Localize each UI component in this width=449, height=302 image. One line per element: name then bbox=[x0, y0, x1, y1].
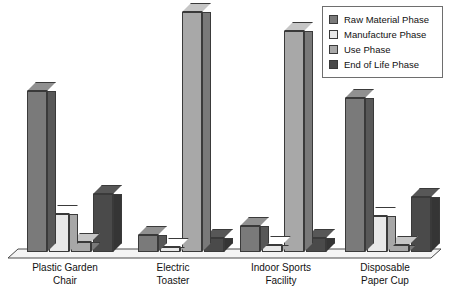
bar-side-face bbox=[113, 194, 122, 252]
bar-electric-toaster-raw-material-phase bbox=[138, 235, 158, 252]
category-label-3: Disposable Paper Cup bbox=[330, 262, 440, 287]
bar-top-face bbox=[93, 185, 122, 194]
bar-top-face bbox=[240, 217, 269, 226]
bar-front-face bbox=[182, 12, 202, 252]
bar-front-face bbox=[284, 31, 304, 252]
bar-front-face bbox=[160, 247, 180, 252]
legend-swatch-manufacture-phase bbox=[329, 30, 338, 39]
bar-top-face bbox=[138, 226, 167, 235]
bar-side-face bbox=[431, 197, 440, 252]
bar-side-face bbox=[304, 31, 313, 252]
chart-legend: Raw Material Phase Manufacture Phase Use… bbox=[322, 6, 443, 78]
bar-front-face bbox=[345, 98, 365, 252]
bar-side-face bbox=[224, 238, 233, 252]
bar-front-face bbox=[138, 235, 158, 252]
legend-swatch-end-of-life-phase bbox=[329, 60, 338, 69]
category-label-2: Indoor Sports Facility bbox=[222, 262, 340, 287]
bar-side-face bbox=[202, 12, 211, 252]
bar-side-face bbox=[365, 98, 374, 252]
bar-top-face bbox=[284, 22, 313, 31]
legend-item-end-of-life-phase[interactable]: End of Life Phase bbox=[329, 57, 436, 71]
legend-swatch-raw-material-phase bbox=[329, 15, 338, 24]
bar-electric-toaster-manufacture-phase bbox=[160, 247, 180, 252]
bar-front-face bbox=[411, 197, 431, 252]
legend-item-manufacture-phase[interactable]: Manufacture Phase bbox=[329, 27, 436, 41]
legend-item-use-phase[interactable]: Use Phase bbox=[329, 42, 436, 56]
legend-label-use-phase: Use Phase bbox=[344, 44, 390, 55]
legend-label-manufacture-phase: Manufacture Phase bbox=[344, 29, 426, 40]
bar-top-face bbox=[27, 82, 56, 91]
bar-indoor-sports-facility-raw-material-phase bbox=[240, 226, 260, 252]
category-label-0: Plastic Garden Chair bbox=[10, 262, 120, 287]
legend-label-raw-material-phase: Raw Material Phase bbox=[344, 14, 429, 25]
bar-side-face bbox=[326, 238, 335, 252]
legend-label-end-of-life-phase: End of Life Phase bbox=[344, 59, 419, 70]
bar-top-face bbox=[182, 3, 211, 12]
legend-item-raw-material-phase[interactable]: Raw Material Phase bbox=[329, 12, 436, 26]
bar-indoor-sports-facility-use-phase bbox=[284, 31, 304, 252]
bar-side-face bbox=[47, 91, 56, 252]
category-label-1: Electric Toaster bbox=[118, 262, 228, 287]
bar-disposable-paper-cup-raw-material-phase bbox=[345, 98, 365, 252]
bar-front-face bbox=[240, 226, 260, 252]
bar-electric-toaster-use-phase bbox=[182, 12, 202, 252]
bar-chart: Plastic Garden Chair Electric Toaster In… bbox=[0, 0, 449, 302]
legend-swatch-use-phase bbox=[329, 45, 338, 54]
bar-top-face bbox=[411, 188, 440, 197]
bar-top-face bbox=[345, 89, 374, 98]
bar-front-face bbox=[27, 91, 47, 252]
bar-disposable-paper-cup-end-of-life-phase bbox=[411, 197, 431, 252]
bar-plastic-garden-chair-raw-material-phase bbox=[27, 91, 47, 252]
